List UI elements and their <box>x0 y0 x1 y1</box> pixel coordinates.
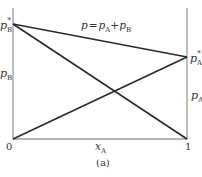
figure-caption: (a) <box>96 157 110 168</box>
x-tick-1: 1 <box>185 141 191 152</box>
pB-label: pB <box>0 67 12 82</box>
pA-partial-pressure-line <box>13 57 187 139</box>
x-tick-0: 0 <box>6 141 12 152</box>
pB-star-label: pB* <box>0 16 12 34</box>
total-pressure-label: p=pA+pB <box>81 19 131 34</box>
x-axis-label: xA <box>95 140 107 155</box>
pA-star-label: pA* <box>190 49 202 67</box>
pA-label: pA <box>191 89 202 104</box>
vapor-pressure-diagram: pB* pB pA* pA p=pA+pB 0 1 xA (a) <box>0 0 202 177</box>
